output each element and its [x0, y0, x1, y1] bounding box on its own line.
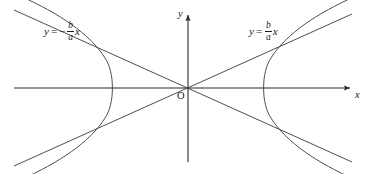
right-label-equals: =	[256, 25, 262, 37]
y-axis-label: y	[178, 9, 183, 20]
left-asymptote-label: y=−bax	[44, 21, 80, 44]
hyperbola-figure: y=−bax y=bax y x O	[0, 0, 370, 174]
right-label-variable: x	[273, 25, 278, 37]
right-label-y: y	[249, 25, 254, 37]
left-label-y: y	[44, 25, 49, 37]
left-label-variable: x	[75, 25, 80, 37]
origin-label: O	[177, 91, 185, 102]
left-label-numerator: b	[67, 21, 74, 31]
left-label-minus: −	[59, 25, 65, 37]
right-asymptote-label: y=bax	[249, 21, 278, 44]
right-label-denominator: a	[265, 33, 272, 43]
left-label-fraction: ba	[67, 21, 74, 44]
left-label-equals: =	[51, 25, 57, 37]
right-label-numerator: b	[265, 21, 272, 31]
right-label-fraction: ba	[265, 21, 272, 44]
x-axis-label: x	[355, 90, 360, 101]
left-label-denominator: a	[67, 33, 74, 43]
